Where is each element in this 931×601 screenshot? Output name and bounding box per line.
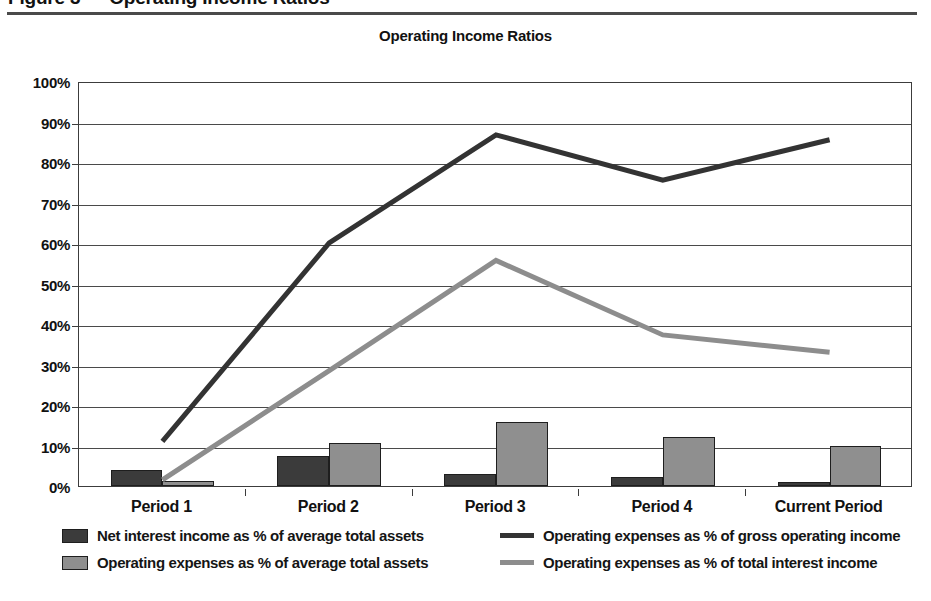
legend-item[interactable]: Operating expenses as % of total interes… xyxy=(500,554,877,571)
line-series-svg xyxy=(79,83,913,488)
y-axis-label: 20% xyxy=(10,398,70,415)
document-heading: Figure 3 — Operating Income Ratios xyxy=(8,0,330,9)
x-axis-tick xyxy=(578,489,579,496)
x-axis-label: Period 4 xyxy=(578,498,745,516)
legend-label: Operating expenses as % of total interes… xyxy=(543,554,877,571)
y-axis-label: 10% xyxy=(10,438,70,455)
x-axis-label: Period 2 xyxy=(245,498,412,516)
y-axis-tick xyxy=(72,326,79,327)
y-axis-tick xyxy=(72,286,79,287)
x-axis: Period 1Period 2Period 3Period 4Current … xyxy=(78,489,912,523)
lines-layer xyxy=(79,83,911,486)
y-axis-label: 100% xyxy=(10,74,70,91)
y-axis-tick xyxy=(72,164,79,165)
x-axis-tick xyxy=(745,489,746,496)
line-total-interest-income xyxy=(162,260,829,480)
legend-label: Net interest income as % of average tota… xyxy=(97,527,424,544)
y-axis-label: 60% xyxy=(10,236,70,253)
chart-title: Operating Income Ratios xyxy=(0,27,931,44)
y-axis-label: 40% xyxy=(10,317,70,334)
header-divider xyxy=(7,12,917,15)
legend-label: Operating expenses as % of average total… xyxy=(97,554,428,571)
y-axis-label: 70% xyxy=(10,195,70,212)
y-axis-tick xyxy=(72,124,79,125)
legend-swatch xyxy=(62,556,88,570)
y-axis-label: 30% xyxy=(10,357,70,374)
legend-line-key xyxy=(500,560,534,565)
x-axis-tick xyxy=(412,489,413,496)
y-axis-label: 80% xyxy=(10,155,70,172)
legend-line-key xyxy=(500,533,534,538)
plot-area xyxy=(78,82,912,487)
chart-page: Figure 3 — Operating Income Ratios Opera… xyxy=(0,0,931,601)
legend-item[interactable]: Operating expenses as % of gross operati… xyxy=(500,527,900,544)
legend-item[interactable]: Operating expenses as % of average total… xyxy=(62,554,428,571)
y-axis-labels: 100%90%80%70%60%50%40%30%20%10%0% xyxy=(8,82,70,487)
legend-label: Operating expenses as % of gross operati… xyxy=(543,527,900,544)
y-axis-label: 0% xyxy=(10,479,70,496)
line-gross-operating-income xyxy=(162,135,829,442)
y-axis-label: 90% xyxy=(10,114,70,131)
x-axis-label: Current Period xyxy=(745,498,912,516)
y-axis-tick xyxy=(72,448,79,449)
y-axis-tick xyxy=(72,205,79,206)
y-axis-tick xyxy=(72,407,79,408)
legend-swatch xyxy=(62,529,88,543)
legend-item[interactable]: Net interest income as % of average tota… xyxy=(62,527,424,544)
x-axis-tick xyxy=(245,489,246,496)
y-axis-tick xyxy=(72,245,79,246)
x-axis-label: Period 1 xyxy=(78,498,245,516)
y-axis-label: 50% xyxy=(10,276,70,293)
y-axis-tick xyxy=(72,367,79,368)
x-axis-label: Period 3 xyxy=(412,498,579,516)
chart-legend: Net interest income as % of average tota… xyxy=(0,525,931,587)
